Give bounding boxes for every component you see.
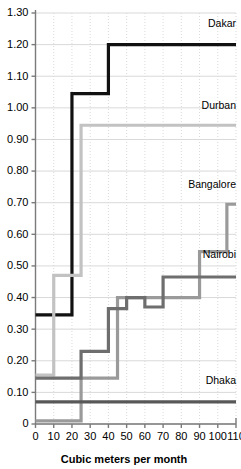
x-axis-ticks: 0102030405060708090100110	[32, 424, 241, 442]
series-label-durban: Durban	[202, 99, 237, 111]
series-line-bangalore	[36, 204, 237, 421]
chart-canvas: 00.100.200.300.400.500.600.700.800.901.0…	[0, 0, 241, 469]
tariff-step-chart: 00.100.200.300.400.500.600.700.800.901.0…	[0, 0, 241, 469]
x-axis-title: Cubic meters per month	[61, 453, 188, 465]
x-tick-label: 50	[121, 430, 133, 442]
x-tick-label: 60	[139, 430, 151, 442]
x-tick-label: 90	[193, 430, 205, 442]
series-label-dhaka: Dhaka	[206, 374, 237, 386]
x-tick-label: 40	[102, 430, 114, 442]
y-tick-label: 0.20	[7, 354, 28, 366]
y-tick-label: 1.00	[7, 101, 28, 113]
y-tick-label: 1.30	[7, 6, 28, 18]
series-label-bangalore: Bangalore	[188, 178, 236, 190]
y-tick-label: 0.30	[7, 323, 28, 335]
y-tick-label: 0.40	[7, 291, 28, 303]
y-tick-label: 1.20	[7, 38, 28, 50]
x-tick-label: 30	[84, 430, 96, 442]
series-line-nairobi	[36, 277, 237, 378]
y-tick-label: 0.90	[7, 133, 28, 145]
axes	[36, 10, 237, 424]
y-axis-ticks: 00.100.200.300.400.500.600.700.800.901.0…	[7, 6, 35, 429]
series-labels: DakarDurbanBangaloreNairobiDhaka	[188, 17, 236, 386]
x-tick-label: 80	[175, 430, 187, 442]
x-tick-label: 110	[227, 430, 241, 442]
series-label-nairobi: Nairobi	[203, 248, 236, 260]
gridlines	[36, 13, 237, 424]
series-label-dakar: Dakar	[208, 17, 237, 29]
y-tick-label: 0.70	[7, 196, 28, 208]
x-tick-label: 10	[48, 430, 60, 442]
x-tick-label: 20	[66, 430, 78, 442]
y-tick-label: 0.10	[7, 386, 28, 398]
x-tick-label: 100	[209, 430, 227, 442]
y-tick-label: 0	[22, 417, 28, 429]
y-tick-label: 0.50	[7, 259, 28, 271]
y-tick-label: 0.80	[7, 164, 28, 176]
y-tick-label: 1.10	[7, 70, 28, 82]
x-tick-label: 70	[157, 430, 169, 442]
y-tick-label: 0.60	[7, 228, 28, 240]
x-tick-label: 0	[32, 430, 38, 442]
